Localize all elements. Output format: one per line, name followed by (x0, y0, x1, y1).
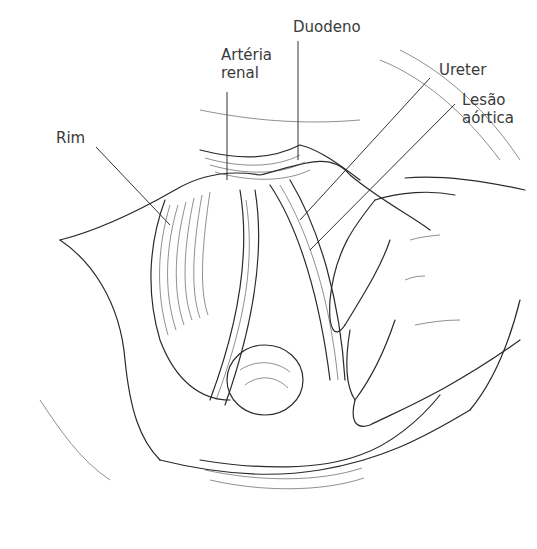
label-ureter: Ureter (439, 61, 486, 79)
illustration-drawing (0, 0, 537, 549)
label-arteria-renal: Artéria renal (221, 46, 272, 82)
leader-lines (96, 41, 455, 250)
surgical-illustration: Duodeno Artéria renal Ureter Lesão aórti… (0, 0, 537, 549)
label-rim: Rim (56, 129, 85, 147)
vessels-and-ureter (210, 180, 345, 415)
wound-edges (40, 50, 520, 480)
label-lesao-aortica: Lesão aórtica (462, 91, 514, 127)
upper-fat-layer (200, 145, 360, 180)
kidney-structure (151, 192, 230, 400)
label-duodeno: Duodeno (293, 18, 361, 36)
leader-rim (96, 147, 170, 225)
retracting-hand (330, 177, 525, 426)
